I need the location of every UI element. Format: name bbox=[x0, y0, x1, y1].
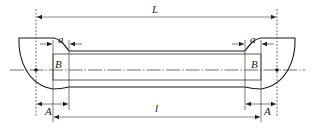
A-right-label: A bbox=[263, 105, 271, 117]
a-left-label: a bbox=[58, 33, 64, 45]
A-left-label: A bbox=[44, 105, 52, 117]
a-right-label: a bbox=[250, 33, 256, 45]
gauge-rectangle bbox=[53, 54, 261, 80]
B-right-label: B bbox=[251, 58, 258, 70]
L-label: L bbox=[151, 3, 158, 15]
l-label: l bbox=[155, 102, 158, 114]
B-left-label: B bbox=[55, 58, 62, 70]
specimen-drawing: L a a B B A A l bbox=[0, 0, 315, 133]
